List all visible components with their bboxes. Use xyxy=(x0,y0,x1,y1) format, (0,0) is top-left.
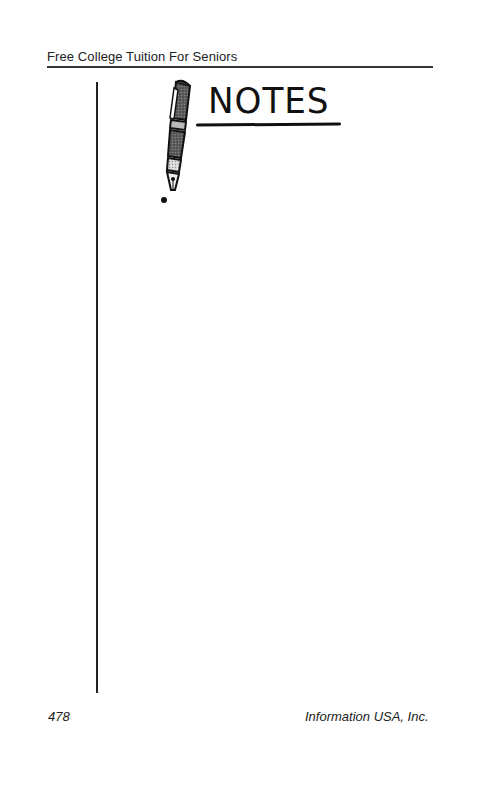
notes-title: NOTES xyxy=(208,80,329,121)
notes-underline xyxy=(196,122,341,126)
fountain-pen-icon xyxy=(150,76,200,206)
margin-rule xyxy=(96,82,98,693)
publisher-name: Information USA, Inc. xyxy=(305,709,429,724)
running-head: Free College Tuition For Seniors xyxy=(47,49,237,64)
header-rule xyxy=(47,66,433,68)
page-number: 478 xyxy=(48,709,70,724)
